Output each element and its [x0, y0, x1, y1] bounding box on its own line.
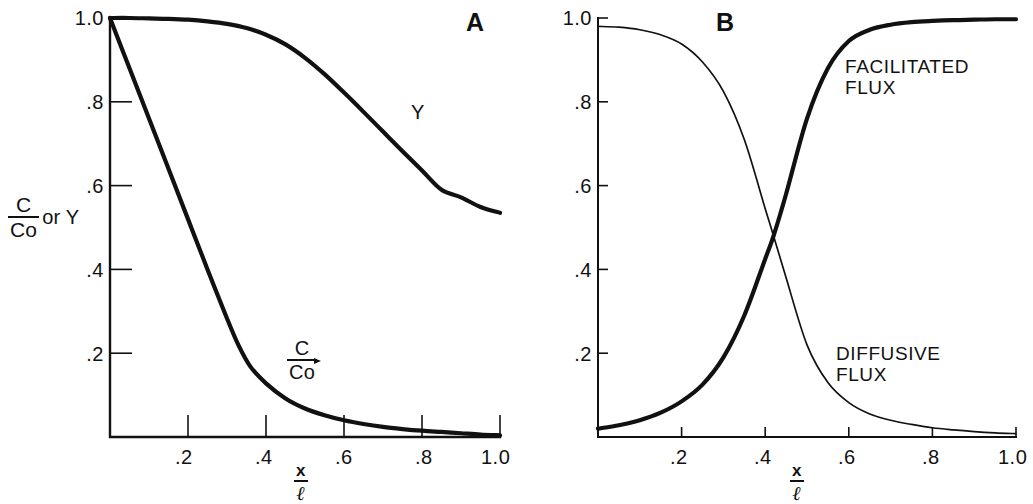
panel-b-xtick-0-8: .8 — [922, 447, 940, 467]
x-over-l-numerator: x — [294, 462, 308, 482]
panel-a-y-axis-title: C Co or Y — [8, 194, 79, 241]
facilitated-flux-line-1: FACILITATED — [845, 56, 969, 77]
x-over-l-numerator-b: x — [790, 462, 804, 482]
c-over-co-annotation-fraction: C Co — [287, 338, 317, 383]
panel-a-xtick-0-2: .2 — [175, 447, 193, 467]
panel-b-xtick-1-0: 1.0 — [998, 447, 1027, 467]
panel-a: A 1.0 .8 .6 .4 .2 .2 .4 .6 .8 1.0 C Co o… — [0, 0, 520, 500]
x-over-l-fraction: x ℓ — [294, 462, 308, 504]
panel-b-ytick-1-0: 1.0 — [528, 8, 592, 28]
c-over-co-annotation-numerator: C — [287, 338, 317, 361]
x-over-l-denominator: ℓ — [294, 482, 308, 503]
panel-a-x-axis-title: x ℓ — [294, 462, 308, 504]
panel-b-x-axis-title: x ℓ — [790, 462, 804, 504]
panel-b-ytick-0-2: .2 — [528, 344, 592, 364]
facilitated-flux-label: FACILITATED FLUX — [845, 56, 969, 99]
panel-a-xtick-0-4: .4 — [255, 447, 273, 467]
panel-a-ytick-0-8: .8 — [62, 92, 104, 112]
x-over-l-fraction-b: x ℓ — [790, 462, 804, 504]
panel-b-xtick-0-2: .2 — [670, 447, 688, 467]
panel-b-ytick-0-4: .4 — [528, 260, 592, 280]
panel-b-xtick-0-4: .4 — [754, 447, 772, 467]
c-over-co-annotation-denominator: Co — [287, 361, 317, 382]
panel-a-xtick-0-8: .8 — [415, 447, 433, 467]
diffusive-flux-line-2: FLUX — [836, 364, 941, 385]
diffusive-flux-line-1: DIFFUSIVE — [836, 343, 941, 364]
panel-a-ytick-0-6: .6 — [62, 176, 104, 196]
panel-a-plot — [0, 0, 520, 500]
panel-b-letter: B — [716, 10, 734, 35]
panel-b: B 1.0 .8 .6 .4 .2 .2 .4 .6 .8 1.0 x ℓ FA… — [520, 0, 1033, 500]
panel-a-xtick-0-6: .6 — [335, 447, 353, 467]
panel-a-ytick-0-4: .4 — [62, 260, 104, 280]
panel-a-ytick-1-0: 1.0 — [62, 8, 104, 28]
c-over-co-numerator: C — [8, 194, 39, 218]
x-over-l-denominator-b: ℓ — [790, 482, 804, 503]
panel-a-letter: A — [466, 10, 484, 35]
y-curve-label: Y — [411, 102, 425, 122]
facilitated-flux-line-2: FLUX — [845, 77, 969, 98]
c-over-co-denominator: Co — [8, 218, 39, 240]
c-over-co-label: C Co — [287, 338, 317, 383]
panel-b-xtick-0-6: .6 — [838, 447, 856, 467]
panel-b-ytick-0-8: .8 — [528, 92, 592, 112]
c-over-co-fraction: C Co — [8, 194, 39, 241]
panel-a-xtick-1-0: 1.0 — [481, 447, 510, 467]
y-axis-title-suffix: or Y — [42, 207, 79, 227]
diffusive-flux-label: DIFFUSIVE FLUX — [836, 343, 941, 386]
panel-a-ytick-0-2: .2 — [62, 344, 104, 364]
panel-b-ytick-0-6: .6 — [528, 176, 592, 196]
